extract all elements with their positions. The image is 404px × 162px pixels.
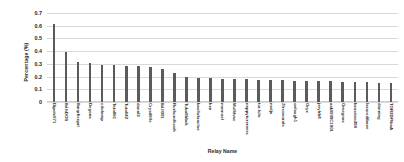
x-axis-title: Relay Name (47, 148, 398, 154)
bar-slot (253, 13, 265, 102)
bar-slot (60, 13, 72, 102)
bar (137, 66, 140, 102)
bar-slot (277, 13, 289, 102)
x-label-slot: danal3 (132, 103, 144, 145)
x-label-slot: mornoel (216, 103, 228, 145)
x-tick-label: nadja (268, 103, 273, 114)
bar (65, 52, 68, 102)
bar (89, 63, 92, 102)
bar-slot (120, 13, 132, 102)
x-label-slot: cdolomp (96, 103, 108, 145)
x-tick-label: ken (208, 103, 213, 110)
bar (293, 81, 296, 102)
bar-slot (325, 13, 337, 102)
bar-slot (289, 13, 301, 102)
x-label-slot: Ibl.ll001 (156, 103, 168, 145)
bar (101, 65, 104, 102)
x-label-slot: Zlrconorols (277, 103, 289, 145)
x-label-slot: Omegnas (337, 103, 349, 145)
x-tick-label: TuboIIbbck (184, 103, 189, 126)
x-tick-label: Ibl.ll001 (160, 103, 165, 119)
bar (197, 78, 200, 102)
y-tick-label: 0.6 (35, 23, 43, 29)
bar-slot (337, 13, 349, 102)
y-tick-label: 0 (39, 99, 42, 105)
x-tick-label: Degona (88, 103, 93, 119)
bar-slot (204, 13, 216, 102)
x-label-slot: onlaugh1 (289, 103, 301, 145)
bar (113, 65, 116, 102)
x-label-slot: ken (204, 103, 216, 145)
x-tick-label: Crystllllfe (148, 103, 153, 123)
bar-slot (265, 13, 277, 102)
bar-slot (168, 13, 180, 102)
x-label-slot: Tatolllt1 (108, 103, 120, 145)
x-tick-label: mornoel (220, 103, 225, 120)
y-tick-label: 0.7 (35, 10, 43, 16)
x-label-slot: Crystllllfe (144, 103, 156, 145)
x-tick-label: Omegnas (340, 103, 345, 123)
x-label-slot: Ibl.hDOS (60, 103, 72, 145)
x-label-slot: nappyturerners (241, 103, 253, 145)
bar (161, 69, 164, 102)
bar (341, 82, 344, 102)
bar-chart: Percentage (%) 00.10.20.30.40.50.60.7 Di… (0, 0, 404, 162)
x-tick-label: Rurhurnlluorh (172, 103, 177, 132)
bar-slot (84, 13, 96, 102)
bar-slot (132, 13, 144, 102)
y-tick-label: 0.4 (35, 48, 43, 54)
bar (305, 81, 308, 102)
bar-slot (144, 13, 156, 102)
bar (53, 24, 56, 102)
bar (390, 83, 393, 102)
bar (354, 82, 357, 102)
bar-slot (156, 13, 168, 102)
x-tick-label: nappyturerners (244, 103, 249, 135)
x-label-slot: Oryx (301, 103, 313, 145)
bar (221, 79, 224, 102)
bar-slot (216, 13, 228, 102)
bar (257, 80, 260, 102)
bar (281, 80, 284, 102)
x-tick-label: TOR2DFNmA (389, 103, 394, 130)
bar-slot (72, 13, 84, 102)
x-axis-tick-labels: Dipolell71Ibl.hDOSlbnqrhcxprlDegonacdolo… (47, 103, 398, 145)
x-tick-label: aakID00C1001 (328, 103, 333, 132)
x-tick-label: Dipolell71 (52, 103, 57, 123)
x-label-slot: Tutoll42 (120, 103, 132, 145)
x-label-slot: Rurhurnlluorh (168, 103, 180, 145)
bar (378, 83, 381, 102)
x-tick-label: danning (377, 103, 382, 120)
y-axis-tick-labels: 00.10.20.30.40.50.60.7 (0, 13, 45, 102)
bar (125, 66, 128, 102)
bar-slot (228, 13, 240, 102)
y-tick-label: 0.5 (35, 35, 43, 41)
bar (173, 73, 176, 102)
x-label-slot: Mulhlvac (228, 103, 240, 145)
x-tick-label: bearzino304 (353, 103, 358, 128)
x-tick-label: danal3 (136, 103, 141, 117)
x-label-slot: Dipolell71 (48, 103, 60, 145)
x-label-slot: jerylrb8 (313, 103, 325, 145)
bar (329, 81, 332, 102)
x-tick-label: Mulhlvac (232, 103, 237, 121)
x-tick-label: Tutoll42 (124, 103, 129, 119)
bar-slot (241, 13, 253, 102)
bar-slot (96, 13, 108, 102)
x-label-slot: lbnqrhcxprl (72, 103, 84, 145)
bar (149, 67, 152, 102)
x-label-slot: lazuredibove (361, 103, 373, 145)
x-label-slot: nadja (265, 103, 277, 145)
bar-slot (349, 13, 361, 102)
bar (317, 81, 320, 102)
bar (366, 82, 369, 102)
bar-slot (108, 13, 120, 102)
bar (245, 79, 248, 102)
y-tick-label: 0.3 (35, 61, 43, 67)
x-label-slot: bearzino304 (349, 103, 361, 145)
x-tick-label: cdolomp (100, 103, 105, 121)
plot-area (47, 13, 398, 102)
bar-slot (192, 13, 204, 102)
x-label-slot: danning (373, 103, 385, 145)
bar-slot (361, 13, 373, 102)
